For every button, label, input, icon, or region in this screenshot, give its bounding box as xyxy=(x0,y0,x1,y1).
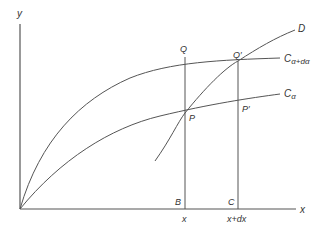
point-label-q: Q xyxy=(180,44,187,54)
point-label-p-prime: P′ xyxy=(242,104,250,114)
envelope-diagram: y x D Cα+dα Cα Q Q′ P P′ B C x x+dx xyxy=(0,0,336,234)
point-label-b: B xyxy=(175,197,181,207)
point-label-q-prime: Q′ xyxy=(233,50,242,60)
x-axis-label: x xyxy=(299,204,306,215)
curve-c-alpha-plus-dalpha xyxy=(20,58,280,209)
curve-label-d: D xyxy=(298,23,305,34)
curve-c-alpha xyxy=(20,94,280,209)
curve-label-c-alpha-dalpha: Cα+dα xyxy=(284,53,310,66)
point-label-p: P xyxy=(189,113,195,123)
curve-d xyxy=(155,30,295,161)
curve-label-c-alpha: Cα xyxy=(284,88,296,101)
tick-label-x: x xyxy=(181,214,187,224)
y-axis-label: y xyxy=(16,8,23,19)
tick-label-x-plus-dx: x+dx xyxy=(226,214,247,224)
point-label-c: C xyxy=(228,197,235,207)
